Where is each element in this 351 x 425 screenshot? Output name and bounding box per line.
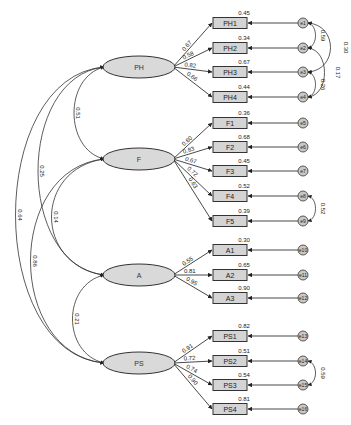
r-squared-value: 0.44 xyxy=(238,84,250,90)
indicator-label: PS2 xyxy=(223,358,236,365)
indicator-label: PH4 xyxy=(223,94,237,101)
latent-label: F xyxy=(137,156,141,163)
indicator-label: PS3 xyxy=(223,382,236,389)
error-label: e2 xyxy=(300,45,306,51)
loading-path xyxy=(173,361,212,363)
error-label: e11 xyxy=(299,272,307,278)
latent-covariance-arc xyxy=(31,159,105,363)
indicator-label: A3 xyxy=(226,295,235,302)
r-squared-value: 0.81 xyxy=(238,396,250,402)
indicator-label: PS1 xyxy=(223,333,236,340)
indicator-label: F5 xyxy=(226,218,234,225)
indicator-label: F2 xyxy=(226,144,234,151)
r-squared-value: 0.54 xyxy=(238,372,250,378)
error-label: e16 xyxy=(299,406,308,412)
error-label: e4 xyxy=(300,94,306,100)
r-squared-value: 0.68 xyxy=(238,134,250,140)
r-squared-value: 0.65 xyxy=(238,262,250,268)
factor-loading-value: 0.81 xyxy=(184,268,196,274)
latent-covariance-value: 0.51 xyxy=(75,107,81,119)
latent-label: PH xyxy=(134,64,144,71)
error-covariance-arc xyxy=(308,23,316,48)
error-label: e8 xyxy=(300,193,306,199)
r-squared-value: 0.51 xyxy=(238,348,250,354)
indicator-label: PH3 xyxy=(223,69,237,76)
latent-covariance-value: 0.86 xyxy=(32,255,38,267)
r-squared-value: 0.34 xyxy=(238,35,250,41)
sem-path-diagram: 0.510.250.640.140.860.21 0.670.580.820.6… xyxy=(0,0,351,425)
indicator-label: F1 xyxy=(226,120,234,127)
error-covariance-arc xyxy=(308,361,316,385)
indicator-label: A2 xyxy=(226,272,235,279)
error-label: e5 xyxy=(300,120,306,126)
error-label: e7 xyxy=(300,168,306,174)
latent-covariance-value: 0.25 xyxy=(39,165,45,177)
indicator-label: F3 xyxy=(226,168,234,175)
error-label: e3 xyxy=(300,69,306,75)
factor-loading-value: 0.95 xyxy=(185,276,199,287)
factor-loading-value: 0.72 xyxy=(184,355,197,362)
factor-loading-value: 0.82 xyxy=(184,61,197,68)
error-covariance-value: 0.30 xyxy=(343,42,349,54)
latent-label: PS xyxy=(134,360,144,367)
indicator-label: A1 xyxy=(226,247,235,254)
error-label: e1 xyxy=(300,20,306,26)
r-squared-value: 0.52 xyxy=(238,183,250,189)
error-covariance-value: 0.17 xyxy=(335,67,341,79)
latent-covariance-value: 0.21 xyxy=(74,313,80,325)
latent-label: A xyxy=(137,272,142,279)
latent-covariance-layer: 0.510.250.640.140.860.21 xyxy=(16,67,105,363)
error-covariance-arc xyxy=(308,196,316,221)
latent-covariance-arc xyxy=(16,67,105,363)
r-squared-value: 0.45 xyxy=(238,10,250,16)
indicator-label: PS4 xyxy=(223,406,236,413)
r-squared-value: 0.36 xyxy=(238,110,250,116)
error-label: e14 xyxy=(299,358,308,364)
latent-covariance-value: 0.64 xyxy=(17,209,23,221)
indicator-label: F4 xyxy=(226,193,234,200)
error-covariance-value: 0.26 xyxy=(320,79,326,91)
factor-loading-value: 0.63 xyxy=(187,176,199,190)
error-covariance-layer: 0.590.300.170.260.520.59 xyxy=(308,23,349,385)
r-squared-value: 0.45 xyxy=(238,158,250,164)
loading-path xyxy=(173,123,212,159)
error-label: e10 xyxy=(299,247,308,253)
error-covariance-value: 0.52 xyxy=(320,203,326,215)
error-covariance-value: 0.59 xyxy=(320,367,326,379)
indicator-label: PH2 xyxy=(223,45,237,52)
loading-path xyxy=(173,23,212,67)
r-squared-value: 0.90 xyxy=(238,285,250,291)
factor-loading-value: 0.66 xyxy=(186,70,199,82)
factor-loading-value: 0.90 xyxy=(187,373,200,386)
r-squared-value: 0.39 xyxy=(238,208,250,214)
error-label: e12 xyxy=(299,295,308,301)
error-covariance-arc xyxy=(308,72,316,97)
r-squared-value: 0.30 xyxy=(238,237,250,243)
error-label: e15 xyxy=(299,382,308,388)
nodes-layer: PH10.45e1PH20.34e2PH30.67e3PH40.44e4F10.… xyxy=(103,10,308,415)
error-label: e6 xyxy=(300,144,306,150)
error-covariance-arc xyxy=(308,23,331,72)
error-label: e9 xyxy=(300,218,306,224)
error-label: e13 xyxy=(299,333,308,339)
r-squared-value: 0.82 xyxy=(238,323,250,329)
indicator-label: PH1 xyxy=(223,20,237,27)
r-squared-value: 0.67 xyxy=(238,59,250,65)
latent-covariance-value: 0.14 xyxy=(53,211,59,223)
